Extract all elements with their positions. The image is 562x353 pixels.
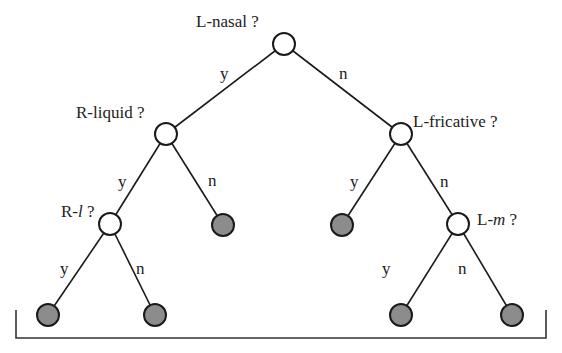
label-r-l-yes: y xyxy=(60,259,69,278)
label-l-fricative-no: n xyxy=(440,172,449,191)
node-r-liquid xyxy=(155,123,177,145)
node-root xyxy=(273,33,295,55)
label-r-l-question: R-l ? xyxy=(61,202,95,221)
edge-root-yes xyxy=(166,44,284,134)
edge-l-m-yes xyxy=(401,224,458,315)
label-r-liquid-yes: y xyxy=(118,172,127,191)
label-l-fricative-question: L-fricative ? xyxy=(413,112,497,131)
node-r-l xyxy=(99,213,121,235)
label-r-liquid-no: n xyxy=(208,171,217,190)
label-r-liquid-question: R-liquid ? xyxy=(76,103,144,122)
label-l-fricative-yes: y xyxy=(350,172,359,191)
leaf-bracket xyxy=(16,310,546,338)
leaf-r-l-no xyxy=(144,304,166,326)
label-root-question: L-nasal ? xyxy=(196,12,259,31)
edge-l-fricative-no xyxy=(401,134,458,224)
label-root-yes: y xyxy=(220,64,229,83)
decision-tree-diagram: L-nasal ? R-liquid ? L-fricative ? R-l ?… xyxy=(0,0,562,353)
internal-nodes xyxy=(99,33,469,235)
edge-r-l-yes xyxy=(48,224,110,315)
leaf-l-m-no xyxy=(501,304,523,326)
label-l-m-yes: y xyxy=(382,259,391,278)
label-l-m-no: n xyxy=(458,259,467,278)
leaf-l-fricative-yes xyxy=(331,214,353,236)
label-r-l-no: n xyxy=(136,259,145,278)
node-l-fricative xyxy=(390,123,412,145)
leaf-l-m-yes xyxy=(390,304,412,326)
label-l-m-question: L-m ? xyxy=(477,210,517,229)
edge-root-no xyxy=(284,44,401,134)
leaf-r-l-yes xyxy=(37,304,59,326)
node-l-m xyxy=(447,213,469,235)
leaf-r-liquid-no xyxy=(212,214,234,236)
label-root-no: n xyxy=(339,64,348,83)
edge-r-l-no xyxy=(110,224,155,315)
